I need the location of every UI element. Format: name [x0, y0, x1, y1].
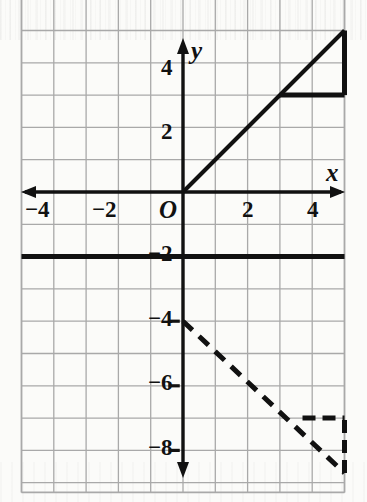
y-tick-label-4: 4: [161, 56, 173, 79]
coordinate-plane-figure: [0, 0, 367, 502]
solid-line-through-origin: [183, 31, 345, 193]
x-axis-arrow-right: [330, 186, 345, 198]
x-tick-label-2: 2: [242, 198, 254, 221]
y-tick-label-2: 2: [161, 120, 173, 143]
y-tick-label-neg4: −4: [148, 307, 173, 330]
x-axis-label: x: [326, 160, 339, 185]
y-axis-arrow-up: [177, 38, 189, 54]
origin-label: O: [159, 197, 177, 222]
graph-page: y x O −4 −2 2 4 4 2 −2 −4 −6 −8: [0, 0, 367, 502]
x-tick-label-neg4: −4: [25, 198, 50, 221]
x-tick-label-4: 4: [307, 198, 319, 221]
y-axis-arrow-down: [177, 462, 189, 478]
x-tick-label-neg2: −2: [92, 198, 117, 221]
y-tick-label-neg6: −6: [148, 371, 173, 394]
y-tick-label-neg2: −2: [148, 242, 173, 265]
y-axis-label: y: [191, 38, 202, 63]
y-tick-label-neg8: −8: [148, 436, 173, 459]
